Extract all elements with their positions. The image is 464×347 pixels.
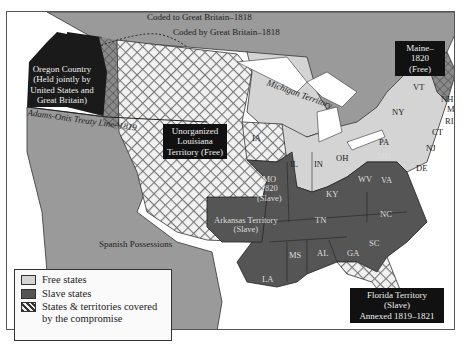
state-tn: TN bbox=[315, 215, 326, 225]
legend-item-compromise: States & territories covered by the comp… bbox=[21, 301, 165, 324]
state-oh: OH bbox=[336, 153, 348, 163]
state-ms: MS bbox=[289, 250, 301, 260]
state-la: LA bbox=[262, 274, 273, 284]
label-florida-territory: Florida Territory (Slave) Annexed 1819–1… bbox=[350, 288, 444, 323]
state-va: VA bbox=[381, 175, 392, 185]
state-sc: SC bbox=[369, 238, 379, 248]
state-ri: RI bbox=[445, 116, 454, 126]
state-il: IL bbox=[290, 159, 298, 169]
state-wv: WV bbox=[358, 174, 372, 184]
label-maine: Maine–1820 (Free) bbox=[395, 41, 445, 76]
free-swatch-icon bbox=[21, 275, 36, 285]
label-oregon-country: Oregon Country (Held jointly by United S… bbox=[27, 62, 97, 107]
state-md: MD bbox=[377, 151, 391, 161]
state-ct: CT bbox=[432, 127, 443, 137]
state-ma: MA bbox=[447, 104, 455, 114]
state-nh: NH bbox=[441, 94, 453, 104]
label-ceded-to-great-britain: Coded to Great Britain–1818 bbox=[147, 13, 252, 22]
label-unorganized-louisiana: Unorganized Louisiana Territory (Free) bbox=[163, 124, 227, 159]
state-ny: NY bbox=[392, 107, 404, 117]
label-spanish-possessions: Spanish Possessions bbox=[99, 240, 172, 249]
state-al: AL bbox=[317, 248, 328, 258]
state-nj: NJ bbox=[426, 143, 435, 153]
state-ky: KY bbox=[326, 189, 338, 199]
slave-swatch-icon bbox=[21, 289, 36, 299]
state-pa: PA bbox=[379, 137, 389, 147]
state-arkansas-territory: Arkansas Territory (Slave) bbox=[214, 216, 278, 235]
label-ceded-by-great-britain: Coded by Great Britain–1818 bbox=[173, 28, 280, 37]
state-vt: VT bbox=[413, 82, 424, 92]
state-ia: IA bbox=[252, 133, 261, 143]
legend-item-free: Free states bbox=[21, 274, 165, 286]
legend-item-slave: Slave states bbox=[21, 288, 165, 300]
hatched-swatch-icon bbox=[21, 302, 36, 312]
state-mo: MO 1820 (Slave) bbox=[257, 175, 282, 203]
state-de: DE bbox=[416, 163, 427, 173]
state-in: IN bbox=[314, 159, 323, 169]
map-legend: Free states Slave states States & territ… bbox=[14, 269, 172, 341]
state-nc: NC bbox=[380, 209, 392, 219]
state-ga: GA bbox=[347, 248, 359, 258]
